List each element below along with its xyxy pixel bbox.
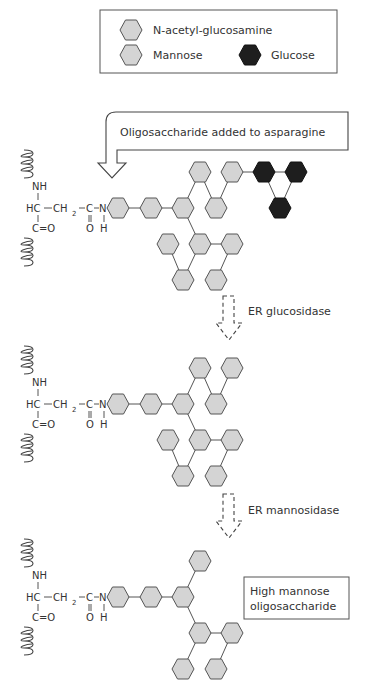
glucose-hexagon — [269, 198, 291, 218]
nh-label: NH — [32, 181, 47, 192]
svg-text:N: N — [99, 399, 106, 410]
legend-label-mannose: Mannose — [153, 49, 203, 62]
svg-text:C=O: C=O — [32, 419, 55, 430]
mannose-hexagon — [157, 430, 179, 450]
mannose-hexagon — [221, 162, 243, 182]
glcnac-hexagon — [140, 394, 162, 414]
mannose-hexagon — [221, 358, 243, 378]
mannose-hexagon — [205, 270, 227, 290]
glucose-legend-icon — [239, 45, 261, 65]
svg-text:HC: HC — [26, 399, 41, 410]
glcnac-hexagon — [107, 587, 129, 607]
mannose-hexagon — [189, 623, 211, 643]
asparagine-residue: NH HC CH 2 C N C=O O H — [21, 539, 108, 655]
glcnac-hexagon — [140, 198, 162, 218]
legend-label-glucose: Glucose — [271, 49, 315, 62]
result-line-1: High mannose — [250, 585, 330, 598]
mannose-hexagon — [221, 430, 243, 450]
mannose-hexagon — [205, 466, 227, 486]
asparagine-residue: NH HC CH 2 C N C=O O H — [21, 150, 108, 266]
svg-text:HC: HC — [26, 592, 41, 603]
asparagine-residue: NH HC CH 2 C N C=O O H — [21, 346, 108, 462]
stage-2-structure: NH HC CH 2 C N C=O O H — [21, 346, 243, 486]
mannose-hexagon — [172, 659, 194, 679]
svg-text:O: O — [86, 612, 94, 623]
svg-text:CH: CH — [53, 592, 68, 603]
svg-text:O: O — [86, 419, 94, 430]
stage-3-structure: NH HC CH 2 C N C=O O H — [21, 539, 243, 679]
protein-helix-icon — [21, 434, 33, 462]
glcnac-legend-icon — [120, 20, 142, 40]
result-line-2: oligosaccharide — [250, 600, 336, 613]
mannose-hexagon — [157, 234, 179, 254]
svg-text:O: O — [86, 223, 94, 234]
hc-label: HC — [26, 203, 41, 214]
mannose-hexagon — [189, 358, 211, 378]
mannose-hexagon — [189, 234, 211, 254]
mannose-hexagon — [189, 162, 211, 182]
step-er-mannosidase: ER mannosidase — [216, 494, 339, 538]
glcnac-hexagon — [107, 394, 129, 414]
protein-helix-icon — [21, 539, 33, 567]
mannose-hexagon — [172, 466, 194, 486]
protein-helix-icon — [21, 627, 33, 655]
glycosylation-diagram: N-acetyl-glucosamine Mannose Glucose Oli… — [0, 0, 379, 695]
mannose-hexagon — [205, 198, 227, 218]
svg-text:C=O: C=O — [32, 612, 55, 623]
glcnac-hexagon — [107, 198, 129, 218]
step-label-glucosidase: ER glucosidase — [248, 305, 331, 318]
result-label-box: High mannose oligosaccharide — [244, 577, 349, 619]
glucose-hexagon — [285, 162, 307, 182]
co-label: C=O — [32, 223, 55, 234]
svg-text:NH: NH — [32, 377, 47, 388]
c-label: C — [86, 203, 93, 214]
dashed-arrow-icon — [216, 296, 242, 340]
svg-text:N: N — [99, 592, 106, 603]
mannose-hexagon — [205, 659, 227, 679]
svg-text:2: 2 — [72, 599, 76, 607]
svg-text:2: 2 — [72, 210, 76, 218]
callout-label: Oligosaccharide added to asparagine — [120, 126, 326, 139]
mannose-hexagon — [172, 587, 194, 607]
legend-label-glcnac: N-acetyl-glucosamine — [153, 24, 273, 37]
svg-text:C: C — [86, 592, 93, 603]
oligosaccharide-man9glcnac2 — [107, 358, 243, 486]
svg-text:NH: NH — [32, 570, 47, 581]
n-label: N — [99, 203, 106, 214]
step-er-glucosidase: ER glucosidase — [216, 296, 331, 340]
glcnac-hexagon — [140, 587, 162, 607]
mannose-hexagon — [221, 623, 243, 643]
protein-helix-icon — [21, 150, 33, 178]
ch2-label: CH — [53, 203, 68, 214]
mannose-hexagon — [205, 394, 227, 414]
oligosaccharide-high-mannose — [107, 551, 243, 679]
mannose-hexagon — [172, 198, 194, 218]
mannose-hexagon — [189, 551, 211, 571]
svg-text:H: H — [100, 223, 108, 234]
mannose-hexagon — [172, 270, 194, 290]
svg-text:C: C — [86, 399, 93, 410]
mannose-legend-icon — [120, 45, 142, 65]
svg-text:H: H — [100, 419, 108, 430]
protein-helix-icon — [21, 346, 33, 374]
protein-helix-icon — [21, 238, 33, 266]
glucose-hexagon — [253, 162, 275, 182]
oligosaccharide-glc3man9glcnac2 — [107, 162, 307, 290]
step-label-mannosidase: ER mannosidase — [248, 504, 339, 517]
mannose-hexagon — [172, 394, 194, 414]
dashed-arrow-icon — [216, 494, 242, 538]
svg-text:2: 2 — [72, 406, 76, 414]
svg-text:CH: CH — [53, 399, 68, 410]
mannose-hexagon — [189, 430, 211, 450]
mannose-hexagon — [221, 234, 243, 254]
legend: N-acetyl-glucosamine Mannose Glucose — [100, 10, 337, 73]
stage-1-structure: NH HC CH 2 C N C=O O H — [21, 150, 307, 290]
svg-text:H: H — [100, 612, 108, 623]
